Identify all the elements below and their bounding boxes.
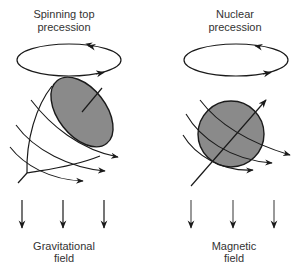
left-precession-orbit: [17, 44, 121, 76]
right-title-line1: Nuclear: [216, 8, 254, 20]
right-title-line2: precession: [208, 21, 261, 33]
left-field-line1: Gravitational: [33, 240, 95, 252]
left-title-line2: precession: [37, 21, 90, 33]
right-field-line1: Magnetic: [212, 240, 257, 252]
right-precession-orbit: [184, 44, 288, 76]
left-title-line1: Spinning top: [33, 8, 94, 20]
left-field-line2: field: [54, 252, 74, 264]
precession-diagram: Spinning top precession: [0, 0, 299, 267]
nuclear-panel: Nuclear precession Magnetic field: [183, 8, 290, 264]
spinning-top-panel: Spinning top precession: [10, 8, 126, 264]
nucleus-sphere: [183, 100, 290, 186]
magnetic-field-arrows: [191, 200, 274, 228]
spinning-top: [10, 66, 126, 183]
right-field-line2: field: [224, 252, 244, 264]
gravitational-field-arrows: [22, 200, 104, 228]
